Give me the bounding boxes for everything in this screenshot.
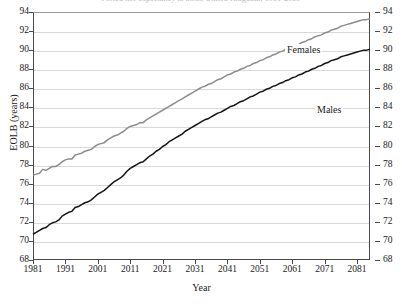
x-tick-label: 2041 [218, 265, 237, 275]
y-tick-mark-right [375, 203, 380, 204]
x-tick-label: 2051 [250, 265, 269, 275]
y-tick-label-right: 94 [383, 7, 393, 17]
y-tick-mark-right [375, 126, 380, 127]
y-axis-right: 6870727476788082848688909294 [375, 12, 402, 260]
y-tick-label-left: 94 [5, 7, 29, 17]
y-tick-label-right: 80 [383, 141, 393, 151]
y-tick-mark-right [375, 222, 380, 223]
y-tick-mark-right [375, 184, 380, 185]
x-tick-label: 2011 [121, 265, 140, 275]
y-tick-mark-right [375, 88, 380, 89]
y-tick-mark-right [375, 69, 380, 70]
y-axis-title: EOLB (years) [8, 63, 19, 183]
y-tick-label-left: 90 [5, 45, 29, 55]
x-tick-label: 1981 [24, 265, 43, 275]
y-tick-mark-right [375, 146, 380, 147]
x-axis: 1981199120012011202120312041205120612071… [33, 260, 370, 278]
y-tick-mark-right [375, 50, 380, 51]
y-tick-label-right: 88 [383, 64, 393, 74]
x-tick-label: 1991 [56, 265, 75, 275]
plot-area: Females Males [33, 12, 370, 260]
y-tick-label-right: 74 [383, 198, 393, 208]
y-tick-mark-right [375, 165, 380, 166]
y-tick-label-right: 68 [383, 255, 393, 265]
x-tick-label: 2081 [348, 265, 367, 275]
series-line-females [33, 19, 370, 175]
y-tick-label-left: 72 [5, 217, 29, 227]
y-tick-label-right: 72 [383, 217, 393, 227]
y-tick-mark-right [375, 12, 380, 13]
y-tick-label-right: 82 [383, 121, 393, 131]
series-label-females: Females [285, 44, 322, 55]
y-tick-mark-right [375, 107, 380, 108]
y-tick-label-left: 70 [5, 236, 29, 246]
y-tick-mark-right [375, 31, 380, 32]
y-tick-label-right: 70 [383, 236, 393, 246]
y-tick-label-left: 74 [5, 198, 29, 208]
series-label-males: Males [315, 104, 343, 115]
x-tick-label: 2061 [283, 265, 302, 275]
y-tick-label-right: 76 [383, 179, 393, 189]
x-axis-title: Year [33, 282, 370, 293]
y-tick-mark-right [375, 260, 380, 261]
y-tick-label-right: 86 [383, 83, 393, 93]
y-tick-label-right: 84 [383, 102, 393, 112]
x-tick-label: 2031 [186, 265, 205, 275]
series-line-males [33, 49, 370, 234]
y-tick-label-right: 78 [383, 160, 393, 170]
x-tick-label: 2001 [88, 265, 107, 275]
x-tick-label: 2071 [315, 265, 334, 275]
chart-container: Period life expectancy at birth, United … [0, 0, 402, 304]
y-tick-label-right: 90 [383, 45, 393, 55]
chart-title: Period life expectancy at birth, United … [0, 0, 402, 3]
y-tick-label-left: 92 [5, 26, 29, 36]
y-tick-mark-right [375, 241, 380, 242]
y-tick-label-right: 92 [383, 26, 393, 36]
x-tick-label: 2021 [153, 265, 172, 275]
